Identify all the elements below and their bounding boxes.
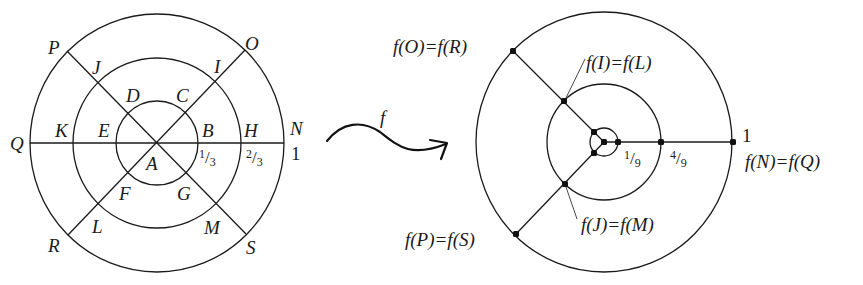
point-label-C: C xyxy=(176,85,189,106)
dot-fJ xyxy=(562,181,568,187)
label-fI-fL: f(I)=f(L) xyxy=(586,52,652,74)
point-label-G: G xyxy=(177,183,191,204)
point-label-D: D xyxy=(125,85,140,106)
label-fO-fR: f(O)=f(R) xyxy=(393,36,467,58)
point-label-L: L xyxy=(91,216,103,237)
dot-4-9 xyxy=(658,139,664,145)
arrowhead-icon xyxy=(430,140,447,159)
left-fraction-2-3: 2/3 xyxy=(246,147,263,169)
point-label-P: P xyxy=(47,37,60,58)
point-label-B: B xyxy=(202,120,214,141)
right-radius-label: 1 xyxy=(742,125,752,146)
dot-center xyxy=(601,139,607,145)
point-label-K: K xyxy=(54,120,69,141)
point-label-R: R xyxy=(47,235,60,256)
point-label-N: N xyxy=(289,118,304,139)
left-fraction-1-3: 1/3 xyxy=(199,147,216,169)
label-fP-fS: f(P)=f(S) xyxy=(405,229,475,251)
image-disk: f(O)=f(R)f(I)=f(L)f(J)=f(M)f(P)=f(S)f(N)… xyxy=(393,12,820,272)
point-label-O: O xyxy=(245,33,259,54)
point-label-S: S xyxy=(246,237,256,258)
dot-1-9 xyxy=(615,139,621,145)
mapping-diagram: POJIDCQKEBHNAFGLMRS11/32/3 f f(O)=f(R)f(… xyxy=(0,0,863,285)
dot-inner-upper xyxy=(591,129,597,135)
point-label-J: J xyxy=(92,57,102,78)
point-label-Q: Q xyxy=(10,133,24,154)
point-label-E: E xyxy=(97,120,110,141)
map-label-f: f xyxy=(380,107,388,128)
point-label-I: I xyxy=(213,56,222,77)
leader-fI xyxy=(565,59,585,100)
label-fN-fQ: f(N)=f(Q) xyxy=(745,151,820,173)
point-label-F: F xyxy=(118,183,131,204)
dot-inner-lower xyxy=(591,150,597,156)
mapping-arrow: f xyxy=(327,107,447,159)
label-fJ-fM: f(J)=f(M) xyxy=(581,214,654,236)
dot-fP xyxy=(513,231,519,237)
right-fraction-1-9: 1/9 xyxy=(624,148,641,170)
wavy-arrow-icon xyxy=(327,125,446,151)
point-label-H: H xyxy=(243,120,259,141)
dot-fO xyxy=(510,48,516,54)
dot-fN xyxy=(730,139,736,145)
point-label-M: M xyxy=(203,217,221,238)
point-label-A: A xyxy=(144,153,158,174)
dot-fI xyxy=(561,98,567,104)
right-fraction-4-9: 4/9 xyxy=(670,148,687,170)
domain-disk: POJIDCQKEBHNAFGLMRS11/32/3 xyxy=(10,14,304,272)
left-radius-label: 1 xyxy=(291,143,301,164)
